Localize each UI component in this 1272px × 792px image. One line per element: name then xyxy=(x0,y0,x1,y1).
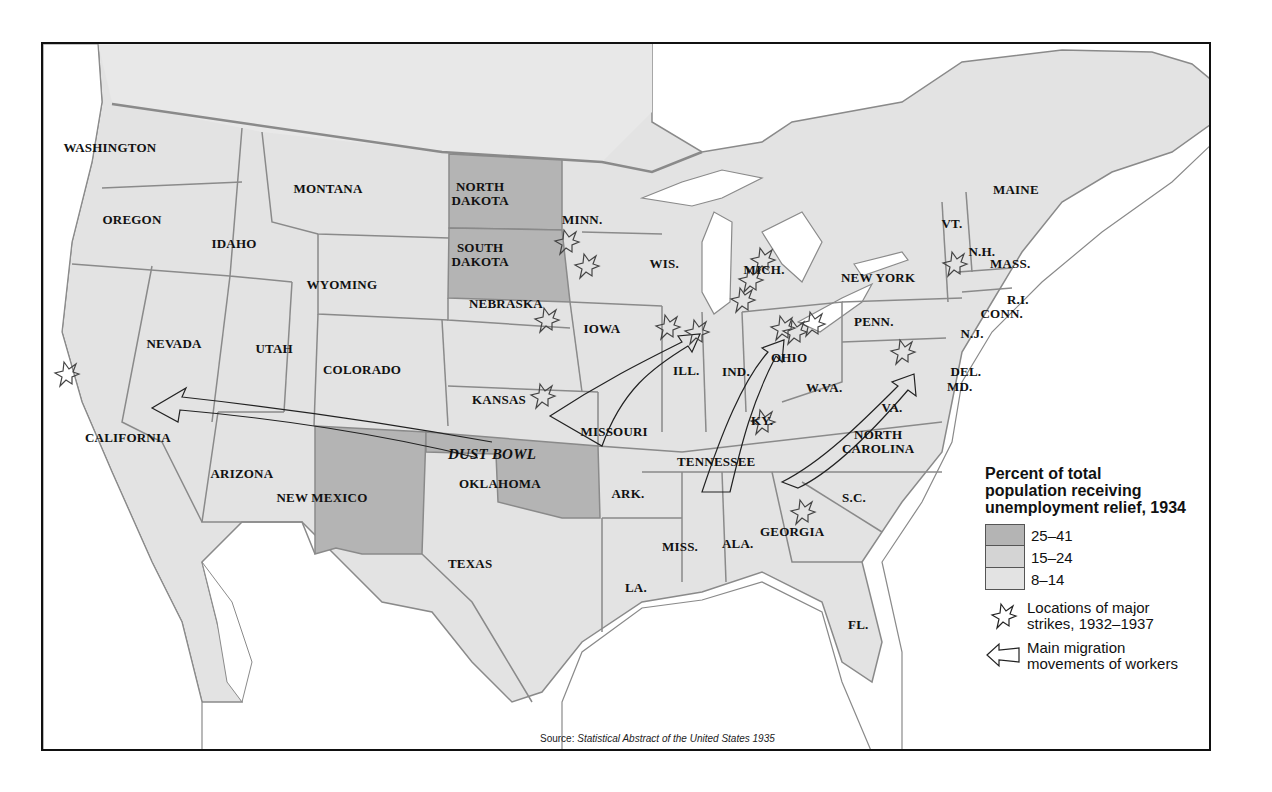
legend-strikes: Locations of major strikes, 1932–1937 xyxy=(985,600,1225,632)
hollow-arrow-icon xyxy=(985,640,1021,670)
label-va: VA. xyxy=(882,401,903,415)
label-california: CALIFORNIA xyxy=(85,431,171,445)
label-montana: MONTANA xyxy=(294,182,363,196)
label-minn: MINN. xyxy=(562,213,602,227)
label-missouri: MISSOURI xyxy=(581,425,648,439)
legend-swatch-low xyxy=(985,568,1025,590)
map-legend: Percent of total population receiving un… xyxy=(985,465,1225,672)
legend-range-mid: 15–24 xyxy=(1031,549,1073,566)
label-ala: ALA. xyxy=(722,537,754,551)
legend-range-high: 25–41 xyxy=(1031,527,1073,544)
label-la: LA. xyxy=(625,581,647,595)
label-del: DEL. xyxy=(951,365,982,379)
label-washington: WASHINGTON xyxy=(64,141,157,155)
legend-title: Percent of total population receiving un… xyxy=(985,465,1225,516)
label-ky: KY. xyxy=(751,414,773,428)
label-oregon: OREGON xyxy=(103,213,162,227)
label-nevada: NEVADA xyxy=(147,337,202,351)
label-ill: ILL. xyxy=(673,364,699,378)
label-new-mexico: NEW MEXICO xyxy=(277,491,368,505)
label-wyoming: WYOMING xyxy=(307,278,378,292)
label-iowa: IOWA xyxy=(584,322,621,336)
label-dust-bowl: DUST BOWL xyxy=(448,447,536,461)
legend-migration: Main migration movements of workers xyxy=(985,640,1225,672)
label-georgia: GEORGIA xyxy=(760,525,824,539)
label-miss: MISS. xyxy=(662,540,698,554)
label-ind: IND. xyxy=(722,365,750,379)
legend-classes: 25–41 15–24 8–14 xyxy=(985,524,1225,590)
label-mich: MICH. xyxy=(744,263,785,277)
label-fl: FL. xyxy=(848,618,868,632)
legend-class-mid: 15–24 xyxy=(985,546,1225,568)
label-colorado: COLORADO xyxy=(323,363,401,377)
label-tennessee: TENNESSEE xyxy=(677,455,755,469)
legend-range-low: 8–14 xyxy=(1031,571,1064,588)
label-wis: WIS. xyxy=(650,257,679,271)
label-nebraska: NEBRASKA xyxy=(469,297,543,311)
label-penn: PENN. xyxy=(854,315,894,329)
label-oklahoma: OKLAHOMA xyxy=(459,477,541,491)
label-vt: VT. xyxy=(942,217,963,231)
label-south-dakota: SOUTH DAKOTA xyxy=(452,241,509,269)
legend-swatch-mid xyxy=(985,546,1025,568)
label-n-j: N.J. xyxy=(961,327,984,341)
label-s-c: S.C. xyxy=(842,491,866,505)
legend-class-low: 8–14 xyxy=(985,568,1225,590)
label-new-york: NEW YORK xyxy=(841,271,915,285)
label-texas: TEXAS xyxy=(448,557,492,571)
label-kansas: KANSAS xyxy=(472,393,526,407)
label-ohio: OHIO xyxy=(771,351,807,365)
label-maine: MAINE xyxy=(993,183,1039,197)
label-ark: ARK. xyxy=(612,487,645,501)
legend-swatch-high xyxy=(985,524,1025,546)
label-w-va: W.VA. xyxy=(806,381,842,395)
label-md: MD. xyxy=(947,380,973,394)
label-north-dakota: NORTH DAKOTA xyxy=(452,180,509,208)
legend-class-high: 25–41 xyxy=(985,524,1225,546)
starburst-icon xyxy=(985,600,1021,630)
label-utah: UTAH xyxy=(256,342,293,356)
label-north-carolina: NORTH CAROLINA xyxy=(842,428,914,456)
source-note: Source: Statistical Abstract of the Unit… xyxy=(540,733,775,744)
label-idaho: IDAHO xyxy=(212,237,257,251)
label-conn: CONN. xyxy=(981,307,1024,321)
label-mass: MASS. xyxy=(990,257,1030,271)
label-r-i: R.I. xyxy=(1007,293,1029,307)
label-arizona: ARIZONA xyxy=(211,467,274,481)
